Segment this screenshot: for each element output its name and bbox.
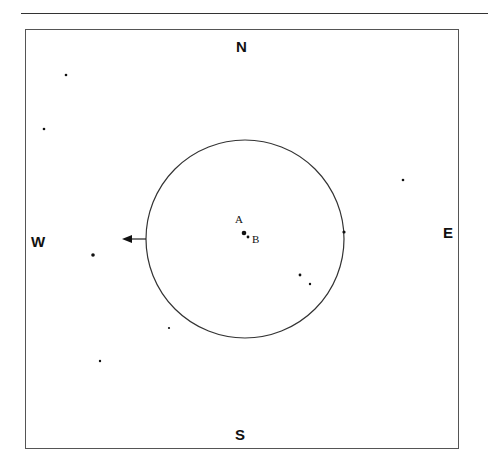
star-field [0,0,488,471]
stars [43,74,405,363]
star-b [247,236,250,239]
field-of-view-circle [146,140,344,338]
motion-arrow-head-icon [122,235,132,243]
star-a [242,231,247,236]
